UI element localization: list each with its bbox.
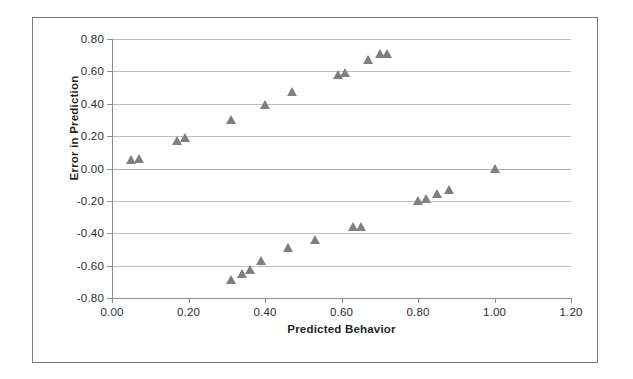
data-point: [283, 243, 293, 252]
data-point: [363, 55, 373, 64]
y-tick-label-5: -0.20: [77, 195, 104, 207]
y-tick-3: [107, 136, 112, 137]
y-tick-label-8: -0.80: [77, 292, 104, 304]
data-point: [260, 100, 270, 109]
data-point: [256, 256, 266, 265]
y-tick-5: [107, 201, 112, 202]
y-tick-0: [107, 39, 112, 40]
data-point: [180, 133, 190, 142]
y-tick-1: [107, 71, 112, 72]
data-point: [134, 154, 144, 163]
x-tick-2: [265, 298, 266, 303]
plot-area: 0.800.600.400.200.00-0.20-0.40-0.60-0.80…: [112, 39, 571, 298]
y-tick-label-0: 0.80: [81, 33, 104, 45]
y-tick-label-4: 0.00: [81, 163, 104, 175]
chart-figure-frame: 0.800.600.400.200.00-0.20-0.40-0.60-0.80…: [32, 17, 598, 363]
x-tick-label-2: 0.40: [253, 306, 276, 318]
gridline-y-0: [112, 39, 571, 40]
x-tick-label-3: 0.60: [330, 306, 353, 318]
data-point: [382, 49, 392, 58]
x-tick-label-4: 0.80: [406, 306, 429, 318]
x-tick-6: [571, 298, 572, 303]
gridline-y-5: [112, 201, 571, 202]
y-tick-7: [107, 266, 112, 267]
x-tick-label-6: 1.20: [559, 306, 582, 318]
data-point: [490, 164, 500, 173]
gridline-y-2: [112, 104, 571, 105]
y-tick-label-2: 0.40: [81, 98, 104, 110]
data-point: [226, 115, 236, 124]
data-point: [226, 275, 236, 284]
x-tick-label-0: 0.00: [100, 306, 123, 318]
data-point: [356, 222, 366, 231]
data-point: [310, 235, 320, 244]
y-tick-label-3: 0.20: [81, 130, 104, 142]
data-point: [340, 68, 350, 77]
gridline-y-4: [112, 169, 571, 170]
data-point: [245, 265, 255, 274]
x-tick-label-1: 0.20: [177, 306, 200, 318]
y-tick-6: [107, 233, 112, 234]
data-point: [287, 87, 297, 96]
data-point: [444, 185, 454, 194]
gridline-y-7: [112, 266, 571, 267]
data-point: [432, 189, 442, 198]
y-tick-label-6: -0.40: [77, 227, 104, 239]
y-tick-label-7: -0.60: [77, 260, 104, 272]
x-tick-4: [418, 298, 419, 303]
gridline-y-6: [112, 233, 571, 234]
x-axis-title: Predicted Behavior: [112, 323, 571, 335]
data-point: [421, 194, 431, 203]
y-tick-label-1: 0.60: [81, 65, 104, 77]
y-axis-title: Error in Prediction: [68, 43, 80, 213]
y-tick-2: [107, 104, 112, 105]
x-tick-1: [189, 298, 190, 303]
x-tick-0: [112, 298, 113, 303]
y-axis-spine: [112, 39, 113, 298]
x-tick-5: [495, 298, 496, 303]
x-tick-label-5: 1.00: [483, 306, 506, 318]
y-tick-4: [107, 169, 112, 170]
x-tick-3: [342, 298, 343, 303]
